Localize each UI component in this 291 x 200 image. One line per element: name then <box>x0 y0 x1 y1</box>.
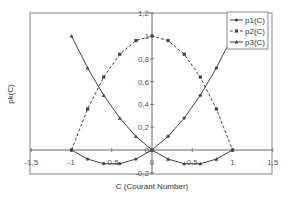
x-tick-label: 0,5 <box>187 158 199 167</box>
y-tick-label: 1,2 <box>138 9 150 18</box>
x-tick-label: 1 <box>230 158 235 167</box>
chart: -1,5-1-0,500,511,5-0,200,20,40,60,811,2 … <box>0 0 291 200</box>
x-axis-title: C (Courant Number) <box>116 182 189 191</box>
y-tick-label: 0,6 <box>138 78 150 87</box>
legend-label: p2(C) <box>245 27 265 36</box>
legend-label: p3(C) <box>245 38 265 47</box>
y-axis-title: pk(C) <box>6 84 15 104</box>
x-tick-label: 0 <box>150 158 155 167</box>
x-tick-label: 1,5 <box>267 158 279 167</box>
y-tick-label: -0,2 <box>135 169 149 178</box>
y-tick-label: 0,8 <box>138 55 150 64</box>
x-tick-label: -1,5 <box>24 158 38 167</box>
legend: p1(C)p2(C)p3(C) <box>227 12 268 49</box>
y-tick-label: 0,2 <box>138 123 150 132</box>
x-tick-label: -0,5 <box>105 158 119 167</box>
x-tick-label: -1 <box>68 158 76 167</box>
y-tick-label: 0,4 <box>138 100 150 109</box>
legend-label: p1(C) <box>245 16 265 25</box>
